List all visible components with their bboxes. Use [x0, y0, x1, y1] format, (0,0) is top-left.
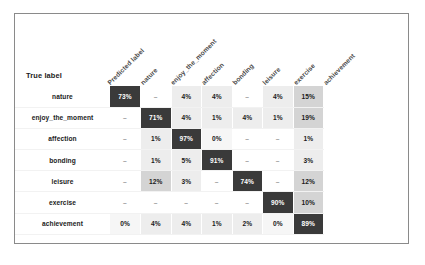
matrix-cell: 91%: [202, 150, 233, 171]
matrix-cell: –: [110, 192, 141, 213]
matrix-cell: 90%: [263, 192, 294, 213]
matrix-cell: 1%: [263, 107, 294, 128]
matrix-row: affection–1%97%0%––1%: [15, 128, 324, 149]
matrix-cell: 3%: [293, 150, 324, 171]
row-header-bonding: bonding: [15, 150, 110, 171]
matrix-cell: 4%: [171, 213, 202, 234]
column-header-achievement: achievement: [322, 52, 356, 86]
column-header-nature: nature: [139, 66, 159, 86]
matrix-cell: 0%: [202, 128, 233, 149]
matrix-cell: 19%: [293, 107, 324, 128]
matrix-cell: 3%: [171, 171, 202, 192]
matrix-cell: 4%: [202, 86, 233, 107]
confusion-matrix: Predicted label nature enjoy_the_moment …: [15, 14, 409, 244]
matrix-cell: 73%: [110, 86, 141, 107]
row-header-achievement: achievement: [15, 213, 110, 234]
matrix-cell: 1%: [141, 150, 172, 171]
matrix-cell: –: [141, 86, 172, 107]
row-header-affection: affection: [15, 128, 110, 149]
matrix-cell: 1%: [141, 128, 172, 149]
column-header-exercise: exercise: [292, 62, 316, 86]
matrix-row: bonding–1%5%91%––3%: [15, 150, 324, 171]
column-header-band: Predicted label nature enjoy_the_moment …: [15, 14, 409, 86]
matrix-cell: 12%: [293, 171, 324, 192]
matrix-cell: 97%: [171, 128, 202, 149]
matrix-cell: 5%: [171, 150, 202, 171]
matrix-cell: 10%: [293, 192, 324, 213]
matrix-cell: 12%: [141, 171, 172, 192]
matrix-cell: 89%: [293, 213, 324, 234]
matrix-cell: –: [110, 171, 141, 192]
matrix-row: leisure–12%3%–74%–12%: [15, 171, 324, 192]
matrix-cell: –: [263, 171, 294, 192]
matrix-cell: –: [110, 150, 141, 171]
matrix-cell: –: [110, 128, 141, 149]
matrix-cell: –: [202, 192, 233, 213]
matrix-cell: 15%: [293, 86, 324, 107]
matrix-row: enjoy_the_moment–71%4%1%4%1%19%: [15, 107, 324, 128]
matrix-cell: –: [232, 128, 263, 149]
row-header-enjoy_the_moment: enjoy_the_moment: [15, 107, 110, 128]
matrix-cell: 1%: [293, 128, 324, 149]
column-header-bonding: bonding: [231, 62, 255, 86]
row-header-nature: nature: [15, 86, 110, 107]
matrix-cell: 74%: [232, 171, 263, 192]
column-header-leisure: leisure: [261, 66, 281, 86]
matrix-cell: 2%: [232, 213, 263, 234]
matrix-cell: 71%: [141, 107, 172, 128]
matrix-table: nature73%–4%4%–4%15%enjoy_the_moment–71%…: [15, 86, 324, 235]
matrix-cell: –: [232, 86, 263, 107]
matrix-cell: –: [171, 192, 202, 213]
matrix-row: exercise–––––90%10%: [15, 192, 324, 213]
matrix-cell: 0%: [263, 213, 294, 234]
matrix-cell: –: [232, 150, 263, 171]
matrix-cell: –: [202, 171, 233, 192]
matrix-cell: 1%: [202, 107, 233, 128]
matrix-body: nature73%–4%4%–4%15%enjoy_the_moment–71%…: [15, 86, 324, 234]
matrix-cell: –: [141, 192, 172, 213]
matrix-cell: –: [263, 128, 294, 149]
matrix-row: nature73%–4%4%–4%15%: [15, 86, 324, 107]
matrix-cell: 4%: [171, 107, 202, 128]
matrix-cell: 4%: [171, 86, 202, 107]
matrix-cell: 4%: [232, 107, 263, 128]
matrix-cell: –: [263, 150, 294, 171]
matrix-cell: 0%: [110, 213, 141, 234]
axis-label-true: True label: [26, 71, 62, 80]
matrix-cell: –: [110, 107, 141, 128]
matrix-cell: 1%: [202, 213, 233, 234]
matrix-cell: 4%: [263, 86, 294, 107]
row-header-exercise: exercise: [15, 192, 110, 213]
matrix-cell: 4%: [141, 213, 172, 234]
figure-frame: Predicted label nature enjoy_the_moment …: [14, 13, 409, 244]
matrix-cell: –: [232, 192, 263, 213]
matrix-row: achievement0%4%4%1%2%0%89%: [15, 213, 324, 234]
row-header-leisure: leisure: [15, 171, 110, 192]
column-header-affection: affection: [200, 61, 225, 86]
